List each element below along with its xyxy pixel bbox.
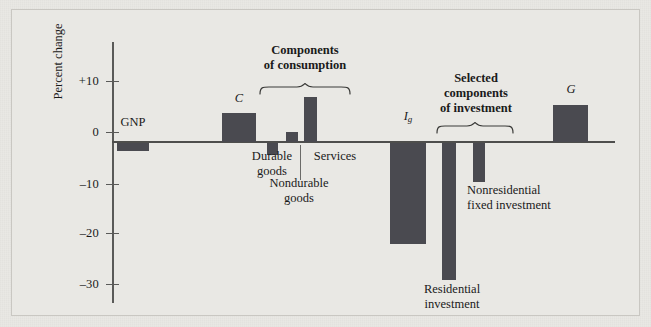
y-tick-label-10: +10 [79,74,99,89]
label-divider-line [300,145,301,180]
plot-area: Percent change +10 0 –10 –20 –30 [12,10,639,315]
brace-selected-components-of-investment [436,122,514,134]
y-tick-label-minus10: –10 [80,177,99,192]
bar-nonresidential-fixed-investment [473,143,485,182]
bar-ig [390,143,426,244]
y-tick-label-minus30: –30 [80,277,99,292]
bar-label-services: Services [304,149,366,164]
bar-c [222,113,256,142]
group-heading-investment-line1: Selected [454,71,498,85]
bar-label-nonresidential-fixed-investment: Nonresidential fixed investment [467,183,583,213]
bar-label-nondurable-goods-line1: Nondurable [269,176,328,190]
y-tick-mark-minus30 [106,284,119,285]
y-tick-mark-10 [106,81,119,82]
bar-gnp [117,143,149,151]
bar-label-g: G [550,82,592,97]
bar-label-residential-investment: Residential investment [408,282,496,312]
bar-g [553,105,588,142]
bar-label-durable-goods: Durable goods [236,149,308,179]
bar-label-nonresidential-line1: Nonresidential [467,183,541,197]
bar-label-residential-line1: Residential [424,282,480,296]
group-heading-consumption-line1: Components [271,43,338,57]
bar-label-nonresidential-line2: fixed investment [467,198,551,212]
figure-canvas: Percent change +10 0 –10 –20 –30 [0,0,651,327]
y-tick-mark-minus10 [106,184,119,185]
group-heading-investment-line3: of investment [440,101,512,115]
bar-label-nondurable-goods: Nondurable goods [246,176,352,206]
group-heading-investment-line2: components [444,86,508,100]
bar-label-nondurable-goods-line2: goods [284,191,314,205]
bar-label-ig-subscript: g [408,114,413,124]
bar-label-c: C [218,91,260,106]
bar-services [304,97,317,142]
y-tick-mark-0 [106,132,119,133]
group-heading-investment: Selected components of investment [418,71,534,115]
bar-label-gnp: GNP [109,115,157,130]
brace-components-of-consumption [259,83,351,95]
y-tick-label-0: 0 [93,125,99,140]
bar-nondurable-goods [286,132,298,142]
zero-baseline [112,141,615,143]
bar-residential-investment [442,143,456,280]
bar-label-ig: Ig [389,109,427,125]
group-heading-consumption-line2: of consumption [264,58,346,72]
y-tick-mark-minus20 [106,233,119,234]
group-heading-consumption: Components of consumption [240,43,370,73]
figure-frame: Percent change +10 0 –10 –20 –30 [11,9,640,316]
bar-label-durable-goods-line1: Durable [252,149,292,163]
y-tick-label-minus20: –20 [80,226,99,241]
y-axis-title: Percent change [51,2,66,122]
bar-label-residential-line2: investment [425,297,480,311]
